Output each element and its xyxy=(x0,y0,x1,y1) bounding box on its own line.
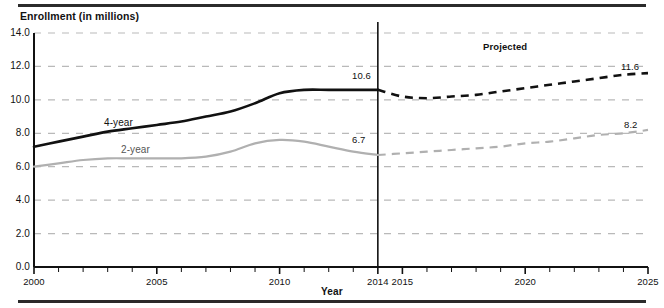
value-label-2-year-2025: 8.2 xyxy=(624,119,638,130)
x-axis-title: Year xyxy=(0,286,664,297)
series-label-4-year: 4-year xyxy=(104,117,133,128)
x-tick-marks xyxy=(34,267,648,274)
y-tick-label: 14.0 xyxy=(0,27,30,38)
y-tick-label: 4.0 xyxy=(0,194,30,205)
series-line-actual-4-year xyxy=(34,90,378,147)
y-tick-label: 12.0 xyxy=(0,60,30,71)
series-line-actual-2-year xyxy=(34,140,378,167)
y-tick-label: 0.0 xyxy=(0,261,30,272)
series-line-projected-4-year xyxy=(378,73,648,98)
y-tick-label: 8.0 xyxy=(0,127,30,138)
y-tick-label: 6.0 xyxy=(0,161,30,172)
y-tick-label: 2.0 xyxy=(0,228,30,239)
value-label-2-year-2014: 6.7 xyxy=(352,134,366,145)
chart-figure: Enrollment (in millions) 0.02.04.06.08.0… xyxy=(0,0,664,308)
value-label-4-year-2025: 11.6 xyxy=(621,61,639,72)
series-label-2-year: 2-year xyxy=(121,144,150,155)
plot-area xyxy=(0,0,664,308)
value-label-4-year-2014: 10.6 xyxy=(352,70,371,81)
projected-annotation: Projected xyxy=(483,41,527,52)
y-tick-label: 10.0 xyxy=(0,94,30,105)
gridlines-group xyxy=(34,33,648,234)
